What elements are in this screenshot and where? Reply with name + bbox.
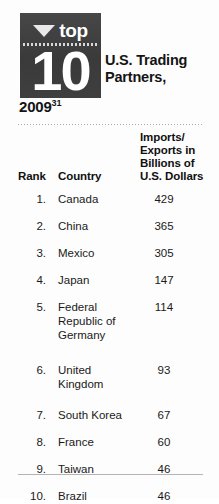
cell-rank: 7. — [10, 408, 46, 422]
cell-rank: 4. — [10, 273, 46, 287]
table-row: 10. Brazil 46 x — [0, 489, 219, 504]
table-row: 8. France 60 x — [0, 435, 219, 453]
header: top 10 U.S. Trading Partners, 200931 — [0, 0, 219, 118]
cell-value: 429 — [140, 192, 188, 206]
cell-country: China — [58, 219, 134, 233]
page-title: U.S. Trading Partners, — [105, 52, 217, 86]
table-row: 9. Taiwan 46 x — [0, 462, 219, 480]
year-value: 2009 — [19, 98, 52, 115]
cell-rank: 5. — [10, 300, 46, 314]
cell-value: 147 — [140, 273, 188, 287]
cell-rank: 8. — [10, 435, 46, 449]
cell-rank: 1. — [10, 192, 46, 206]
cell-rank: 2. — [10, 219, 46, 233]
cell-country: Mexico — [58, 246, 134, 260]
column-header-country: Country — [58, 170, 101, 183]
column-header-value: Imports/ Exports in Billions of U.S. Dol… — [140, 131, 212, 183]
table-row: 5. Federal Republic of Germany 114 xxx — [0, 300, 219, 354]
cell-value: 93 — [140, 363, 188, 377]
title-year: 200931 — [19, 98, 61, 115]
cell-country: France — [58, 435, 134, 449]
table-row: 3. Mexico 305 x — [0, 246, 219, 264]
top-ten-badge: top 10 — [20, 13, 101, 98]
header-divider — [18, 124, 203, 125]
cell-value: 365 — [140, 219, 188, 233]
cell-country: Brazil — [58, 489, 134, 503]
table-row: 1. Canada 429 x — [0, 192, 219, 210]
table-row: 7. South Korea 67 x — [0, 408, 219, 426]
cell-country: South Korea — [58, 408, 134, 422]
cell-rank: 10. — [10, 489, 46, 503]
cell-value: 305 — [140, 246, 188, 260]
cell-value: 46 — [140, 489, 188, 503]
table-row: 6. United Kingdom 93 xx — [0, 363, 219, 399]
table-header-row: Rank Country Imports/ Exports in Billion… — [0, 131, 219, 183]
rankings-table: Rank Country Imports/ Exports in Billion… — [0, 131, 219, 504]
badge-number: 10 — [20, 44, 101, 98]
table-bottom-divider — [18, 474, 203, 475]
cell-country: Canada — [58, 192, 134, 206]
table-row: 4. Japan 147 x — [0, 273, 219, 291]
cell-value: 114 — [140, 300, 188, 314]
badge-top-label: top — [59, 21, 88, 40]
cell-rank: 6. — [10, 363, 46, 377]
column-header-rank: Rank — [18, 170, 46, 183]
cell-country: United Kingdom — [58, 363, 134, 391]
cell-rank: 3. — [10, 246, 46, 260]
table-row: 2. China 365 x — [0, 219, 219, 237]
cell-country: Japan — [58, 273, 134, 287]
cell-value: 67 — [140, 408, 188, 422]
triangle-down-icon — [33, 25, 55, 37]
cell-country: Federal Republic of Germany — [58, 300, 134, 342]
footnote-marker: 31 — [52, 98, 62, 108]
cell-value: 60 — [140, 435, 188, 449]
